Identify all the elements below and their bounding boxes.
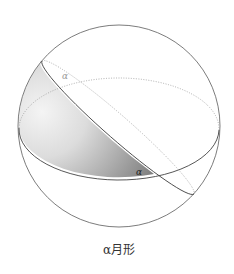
back-angle-label: α xyxy=(62,71,68,81)
figure-caption: α月形 xyxy=(0,242,234,258)
front-angle-label: α xyxy=(136,167,142,177)
lune-diagram: α α xyxy=(0,0,234,274)
